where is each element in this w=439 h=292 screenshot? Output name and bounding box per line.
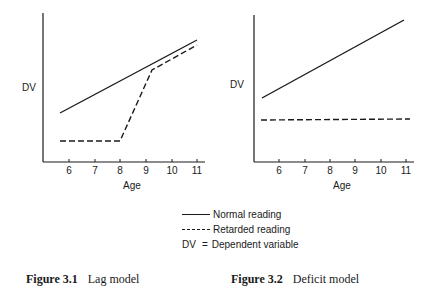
figure-label: Figure 3.1 [26, 272, 78, 286]
y-axis-label: DV [230, 79, 244, 90]
dv-abbreviation: DV [182, 237, 196, 252]
tick-label: 7 [92, 165, 98, 176]
tick-label: 6 [276, 165, 282, 176]
dashed-line-swatch-icon [182, 229, 210, 230]
figure-caption-3-2: Figure 3.2Deficit model [231, 272, 359, 287]
figure-title: Deficit model [293, 272, 359, 286]
legend-item-normal: Normal reading [182, 207, 298, 222]
x-tick-labels: 6 7 8 9 10 11 [276, 165, 411, 176]
equals-sign: = [202, 237, 208, 252]
lag-model-chart: 6 7 8 9 10 11 Age DV [22, 13, 205, 191]
tick-label: 8 [327, 165, 333, 176]
figure-title: Lag model [88, 272, 140, 286]
retarded-reading-line [261, 119, 410, 120]
x-axis-label: Age [123, 180, 141, 191]
legend-item-retarded: Retarded reading [182, 222, 298, 237]
x-axis-label: Age [333, 180, 351, 191]
normal-reading-line [262, 20, 404, 98]
legend: Normal reading Retarded reading DV = Dep… [182, 207, 298, 252]
solid-line-swatch-icon [182, 214, 210, 215]
figure-caption-3-1: Figure 3.1Lag model [26, 272, 139, 287]
tick-label: 9 [352, 165, 358, 176]
retarded-reading-line [60, 45, 197, 141]
normal-reading-line [60, 40, 197, 113]
tick-label: 6 [66, 165, 72, 176]
legend-item-dv: DV = Dependent variable [182, 237, 298, 252]
tick-label: 11 [192, 165, 203, 176]
tick-label: 7 [302, 165, 308, 176]
legend-label: Normal reading [213, 207, 281, 222]
tick-label: 8 [117, 165, 123, 176]
y-axis-label: DV [22, 82, 36, 93]
x-tick-labels: 6 7 8 9 10 11 [66, 165, 202, 176]
tick-label: 10 [375, 165, 387, 176]
deficit-model-chart: 6 7 8 9 10 11 Age DV [230, 15, 414, 191]
tick-label: 10 [166, 165, 178, 176]
tick-label: 11 [401, 165, 412, 176]
legend-label: Retarded reading [213, 222, 290, 237]
tick-label: 9 [143, 165, 149, 176]
dv-definition: Dependent variable [212, 237, 299, 252]
figure-label: Figure 3.2 [231, 272, 283, 286]
